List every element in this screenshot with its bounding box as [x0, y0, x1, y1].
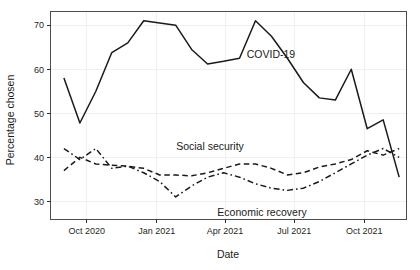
y-tick-label: 30 — [34, 197, 44, 207]
series-annotation-economic-recovery: Economic recovery — [217, 206, 307, 218]
gridlines — [51, 12, 406, 219]
x-tick-label: Jan 2021 — [138, 226, 175, 236]
y-tick-label: 60 — [34, 65, 44, 75]
y-tick-label: 40 — [34, 153, 44, 163]
series-annotations: COVID-19Social securityEconomic recovery — [176, 48, 307, 218]
series-line-social-security — [64, 149, 399, 176]
series-line-economic-recovery — [64, 149, 399, 197]
y-axis: 3040506070 — [34, 20, 51, 206]
x-tick-label: Oct 2020 — [68, 226, 105, 236]
data-series-group — [64, 21, 399, 197]
y-tick-label: 70 — [34, 20, 44, 30]
series-annotation-social-security: Social security — [176, 140, 244, 152]
y-tick-label: 50 — [34, 109, 44, 119]
series-line-covid-19 — [64, 21, 399, 177]
y-axis-title: Percentage chosen — [4, 75, 16, 166]
x-tick-label: Oct 2021 — [346, 226, 383, 236]
x-tick-label: Jul 2021 — [277, 226, 311, 236]
chart-figure: 3040506070 Oct 2020Jan 2021Apr 2021Jul 2… — [0, 0, 420, 270]
x-tick-label: Apr 2021 — [207, 226, 244, 236]
x-axis-title: Date — [217, 248, 239, 260]
x-axis: Oct 2020Jan 2021Apr 2021Jul 2021Oct 2021 — [68, 219, 382, 236]
series-annotation-covid-19: COVID-19 — [247, 48, 296, 60]
chart-svg: 3040506070 Oct 2020Jan 2021Apr 2021Jul 2… — [0, 0, 420, 270]
plot-panel-border — [51, 12, 407, 220]
